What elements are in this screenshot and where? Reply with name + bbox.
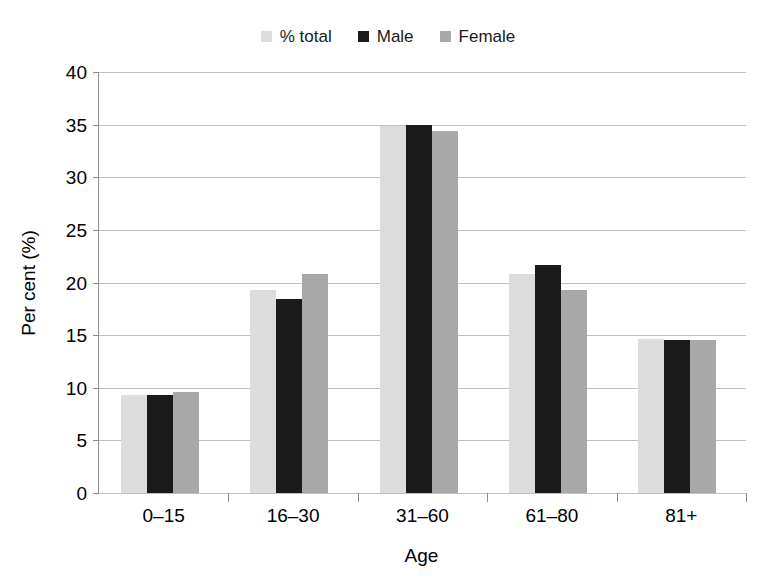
legend-label-female: Female bbox=[459, 28, 516, 45]
bar bbox=[406, 125, 432, 493]
y-axis-tick-label: 20 bbox=[66, 273, 87, 292]
bar bbox=[276, 299, 302, 493]
y-axis-title: Per cent (%) bbox=[16, 72, 42, 493]
bar-chart: % total Male Female Per cent (%) 0510152… bbox=[0, 0, 776, 587]
bar bbox=[432, 131, 458, 493]
y-axis-tick bbox=[93, 493, 99, 494]
y-axis-tick-label: 40 bbox=[66, 63, 87, 82]
bar bbox=[535, 265, 561, 493]
x-axis-title: Age bbox=[98, 545, 745, 567]
gridline bbox=[99, 493, 746, 494]
y-axis-tick-label: 15 bbox=[66, 326, 87, 345]
bar bbox=[250, 290, 276, 493]
y-axis-tick-label: 10 bbox=[66, 378, 87, 397]
legend-label-male: Male bbox=[377, 28, 414, 45]
bar bbox=[509, 274, 535, 493]
x-axis-tick bbox=[746, 493, 747, 502]
legend-item-male: Male bbox=[358, 28, 414, 45]
y-axis-tick-label: 30 bbox=[66, 168, 87, 187]
legend-swatch-percent-total bbox=[261, 31, 272, 42]
legend-swatch-female bbox=[440, 31, 451, 42]
bar bbox=[380, 126, 406, 493]
x-axis-tick bbox=[617, 493, 618, 502]
bars-layer bbox=[99, 72, 746, 493]
x-axis-tick-label: 81+ bbox=[665, 506, 697, 525]
bar bbox=[690, 340, 716, 493]
y-axis-tick-label: 5 bbox=[76, 431, 87, 450]
x-axis-tick bbox=[358, 493, 359, 502]
y-axis-title-text: Per cent (%) bbox=[18, 230, 40, 336]
bar bbox=[638, 339, 664, 493]
bar bbox=[147, 395, 173, 493]
x-axis-tick-label: 31–60 bbox=[396, 506, 449, 525]
y-axis-tick-label: 0 bbox=[76, 484, 87, 503]
bar bbox=[302, 274, 328, 493]
legend-item-female: Female bbox=[440, 28, 516, 45]
y-axis-tick-label: 25 bbox=[66, 220, 87, 239]
bar bbox=[561, 290, 587, 493]
bar bbox=[173, 392, 199, 493]
x-axis-tick-label: 16–30 bbox=[267, 506, 320, 525]
chart-legend: % total Male Female bbox=[0, 28, 776, 45]
bar bbox=[664, 340, 690, 493]
legend-item-percent-total: % total bbox=[261, 28, 332, 45]
x-axis-tick bbox=[487, 493, 488, 502]
x-axis-tick-label: 61–80 bbox=[525, 506, 578, 525]
y-axis-tick-label: 35 bbox=[66, 115, 87, 134]
plot-area: 0510152025303540 0–1516–3031–6061–8081+ bbox=[98, 72, 746, 494]
legend-label-percent-total: % total bbox=[280, 28, 332, 45]
x-axis-tick bbox=[228, 493, 229, 502]
x-axis-tick-label: 0–15 bbox=[143, 506, 185, 525]
legend-swatch-male bbox=[358, 31, 369, 42]
bar bbox=[121, 395, 147, 493]
